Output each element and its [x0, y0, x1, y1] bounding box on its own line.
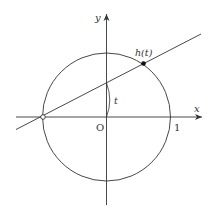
- diagram-svg: y x O 1 t h(t): [0, 0, 211, 218]
- filled-point: [141, 61, 146, 66]
- unit-circle-diagram: y x O 1 t h(t): [0, 0, 211, 218]
- y-axis-label: y: [94, 12, 101, 23]
- open-point: [41, 115, 46, 120]
- origin-label: O: [96, 122, 104, 133]
- angle-arc: [107, 83, 110, 117]
- point-label: h(t): [135, 47, 153, 58]
- one-label: 1: [174, 122, 180, 133]
- angle-label: t: [114, 95, 118, 106]
- x-axis-label: x: [194, 103, 200, 114]
